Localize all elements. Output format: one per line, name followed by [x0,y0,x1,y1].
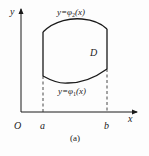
lower-curve-label: y=φ1(x) [57,86,86,97]
region-label-d: D [89,47,98,58]
x-axis-label: x [127,113,133,124]
diagram-canvas: y x O a b D y=φ2(x) y=φ1(x) (a) [0,0,149,156]
tick-label-a: a [40,120,45,131]
figure-caption: (a) [70,133,80,143]
y-axis-label: y [9,6,15,17]
region-diagram: y x O a b D y=φ2(x) y=φ1(x) (a) [0,0,149,156]
lower-curve-phi1 [43,69,107,83]
origin-label: O [14,120,21,131]
upper-curve-phi2 [43,19,107,32]
upper-curve-label: y=φ2(x) [56,7,85,18]
tick-label-b: b [104,120,109,131]
